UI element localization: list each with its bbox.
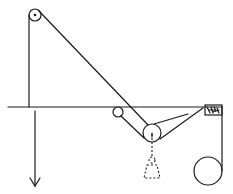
right-pulley [194, 157, 222, 185]
string-small-to-moving [121, 116, 144, 138]
pulley-diagram [0, 0, 233, 194]
force-arrow [30, 111, 40, 186]
string-moving-lower [160, 108, 203, 139]
diagonal-string [39, 11, 148, 125]
diagram-canvas [0, 0, 233, 194]
small-pulley [113, 107, 123, 117]
